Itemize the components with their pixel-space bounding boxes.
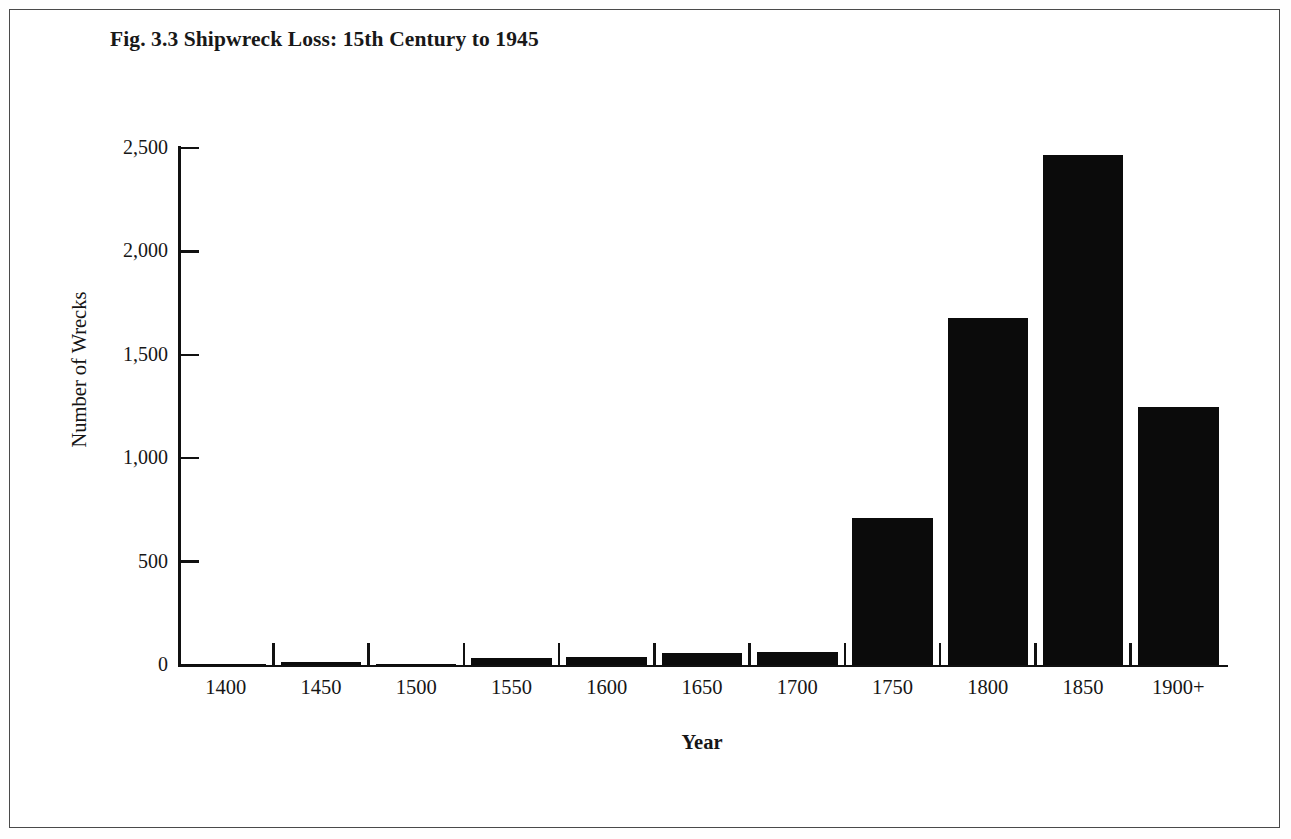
bar-1450 xyxy=(281,662,362,665)
y-axis-tick-label: 2,500 xyxy=(78,137,168,157)
bar-1400 xyxy=(185,664,266,666)
x-axis-tick-label: 1900+ xyxy=(1131,676,1226,698)
y-axis-tick-label: 0 xyxy=(78,654,168,674)
x-axis-title: Year xyxy=(178,731,1226,754)
bar-1500 xyxy=(376,664,457,666)
x-axis-tick-label: 1450 xyxy=(273,676,368,698)
x-axis-tick-label: 1700 xyxy=(750,676,845,698)
x-axis-tick-label: 1500 xyxy=(369,676,464,698)
bar-series xyxy=(178,148,1226,665)
x-axis-tick-label: 1400 xyxy=(178,676,273,698)
y-axis-tick-label: 500 xyxy=(78,551,168,571)
y-axis-title: Number of Wrecks xyxy=(68,270,91,470)
bar-1800 xyxy=(948,318,1029,665)
x-axis-tick-label: 1600 xyxy=(559,676,654,698)
bar-1550 xyxy=(471,658,552,665)
x-axis-tick-label: 1850 xyxy=(1035,676,1130,698)
x-axis-tick-label: 1750 xyxy=(845,676,940,698)
bar-1600 xyxy=(566,657,647,665)
y-axis-tick-label: 1,000 xyxy=(78,447,168,467)
x-axis-tick-label: 1550 xyxy=(464,676,559,698)
bar-1900+ xyxy=(1138,407,1219,666)
bar-1750 xyxy=(852,518,933,665)
x-axis-tick-label: 1800 xyxy=(940,676,1035,698)
bar-1850 xyxy=(1043,155,1124,665)
y-axis-tick-label: 1,500 xyxy=(78,344,168,364)
figure-root: Fig. 3.3 Shipwreck Loss: 15th Century to… xyxy=(0,0,1291,839)
bar-1650 xyxy=(662,653,743,665)
chart-title: Fig. 3.3 Shipwreck Loss: 15th Century to… xyxy=(110,27,539,52)
bar-1700 xyxy=(757,652,838,665)
x-axis-tick-label: 1650 xyxy=(654,676,749,698)
y-axis-tick-label: 2,000 xyxy=(78,240,168,260)
